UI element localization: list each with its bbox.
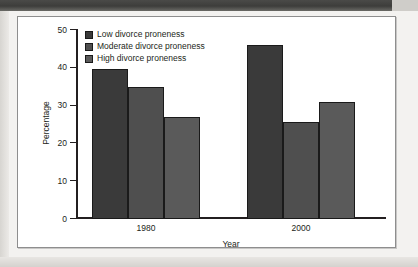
bar <box>319 102 355 219</box>
legend-item: Moderate divorce proneness <box>85 41 205 52</box>
legend-label: High divorce proneness <box>97 54 186 63</box>
y-tick: 10 <box>70 180 76 181</box>
x-tick-label: 1980 <box>137 223 156 233</box>
y-tick-label: 10 <box>58 176 67 185</box>
y-tick-label: 50 <box>58 25 67 34</box>
y-tick-label: 40 <box>58 63 67 72</box>
x-axis-title: Year <box>222 239 239 249</box>
scan-left-margin <box>0 11 9 267</box>
figure-panel: Percentage 01020304050 19802000 Year Low… <box>17 16 396 248</box>
legend-swatch-icon <box>85 43 93 51</box>
y-tick: 40 <box>70 67 76 68</box>
y-tick: 50 <box>70 29 76 30</box>
chart-legend: Low divorce pronenessModerate divorce pr… <box>85 29 205 64</box>
bar <box>128 87 164 219</box>
legend-swatch-icon <box>85 31 93 39</box>
y-axis-line <box>76 29 78 219</box>
scan-bottom-margin <box>0 257 418 267</box>
legend-item: High divorce proneness <box>85 53 205 64</box>
y-tick: 0 <box>70 218 76 219</box>
y-tick: 30 <box>70 105 76 106</box>
legend-swatch-icon <box>85 55 93 63</box>
scan-top-band-right <box>392 0 418 11</box>
legend-label: Low divorce proneness <box>97 30 184 39</box>
y-tick-label: 30 <box>58 101 67 110</box>
bar <box>283 122 319 219</box>
bar <box>92 69 128 219</box>
bar <box>247 45 283 219</box>
legend-item: Low divorce proneness <box>85 29 205 40</box>
scan-top-band <box>0 0 418 11</box>
bar <box>164 117 200 219</box>
bar-chart: Percentage 01020304050 19802000 Year Low… <box>18 17 397 249</box>
legend-label: Moderate divorce proneness <box>97 42 205 51</box>
scanned-page: Percentage 01020304050 19802000 Year Low… <box>0 0 418 267</box>
y-tick-label: 20 <box>58 139 67 148</box>
y-tick-label: 0 <box>62 214 67 223</box>
y-axis-title: Percentage <box>41 101 51 144</box>
y-tick: 20 <box>70 142 76 143</box>
x-tick-label: 2000 <box>292 223 311 233</box>
